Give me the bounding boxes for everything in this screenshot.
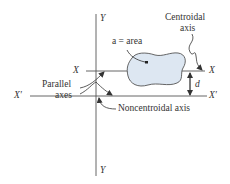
area-shape (127, 53, 185, 86)
x-axis-label-left: X (73, 66, 79, 76)
noncentroidal-axis-label: Noncentroidal axis (118, 104, 190, 114)
x-prime-label-right: X′ (209, 91, 217, 101)
centroidal-axis-label-line2: axis (180, 24, 195, 34)
distance-label: d (195, 80, 200, 90)
x-axis-label-right: X (209, 66, 215, 76)
parallel-axes-label-line2: axes (55, 91, 72, 101)
diagram-graphics (0, 0, 230, 184)
y-axis-label-top: Y (100, 14, 105, 24)
centroidal-axis-leader (189, 34, 202, 70)
parallel-axes-label-line1: Parallel (42, 80, 71, 90)
parallel-axis-diagram: Y Y X X X′ X′ a = area Centroidal axis P… (0, 0, 230, 184)
y-axis-label-bottom: Y (100, 166, 105, 176)
centroid-dot (145, 61, 148, 64)
area-label: a = area (112, 37, 142, 47)
noncentroidal-leader (99, 98, 116, 109)
centroidal-axis-label-line1: Centroidal (165, 13, 205, 23)
x-prime-label-left: X′ (14, 91, 22, 101)
parallel-leader-upper (80, 72, 104, 88)
